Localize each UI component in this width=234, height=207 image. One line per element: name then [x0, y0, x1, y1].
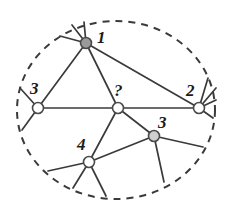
graph-canvas [0, 0, 234, 207]
stub-edge-n3right-10 [154, 136, 164, 182]
node-n1[interactable] [81, 38, 92, 49]
edge-n1-n3left [38, 43, 86, 108]
node-n3right[interactable] [149, 131, 160, 142]
node-label-n3left: 3 [30, 80, 39, 97]
edge-nq-n3right [118, 108, 154, 136]
edge-n1-n2 [86, 43, 199, 108]
node-label-n3right: 3 [158, 114, 167, 131]
node-label-n1: 1 [97, 29, 106, 46]
stub-edge-n3right-9 [154, 136, 203, 147]
node-label-nq: ? [114, 82, 123, 99]
edge-nq-n4 [89, 108, 118, 162]
node-label-n4: 4 [77, 136, 86, 153]
graph-figure: 13?234 [0, 0, 234, 207]
node-layer [33, 38, 205, 168]
node-n2[interactable] [194, 103, 205, 114]
node-label-n2: 2 [186, 82, 195, 99]
node-n4[interactable] [84, 157, 95, 168]
node-nq[interactable] [113, 103, 124, 114]
node-n3left[interactable] [33, 103, 44, 114]
edge-n3right-n4 [89, 136, 154, 162]
